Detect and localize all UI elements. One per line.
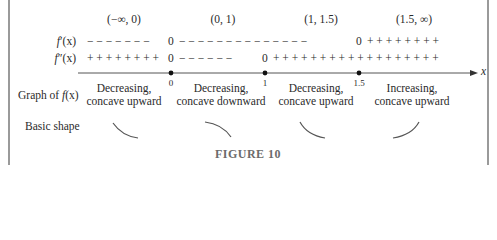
- figure-caption: FIGURE 10: [215, 147, 281, 162]
- graph-desc-1.5-inf: Increasing,concave upward: [374, 82, 449, 108]
- point-1.5: [357, 71, 362, 76]
- point-1: [263, 71, 268, 76]
- graph-desc-1-1.5: Decreasing,concave upward: [278, 82, 353, 108]
- basic-shape-label: Basic shape: [25, 120, 80, 133]
- shape-decreasing-concave-down-icon: [205, 122, 231, 137]
- graph-row-label: Graph of f(x): [18, 89, 79, 102]
- graph-desc-0-1: Decreasing,concave downward: [176, 82, 265, 108]
- graph-desc-neg-inf-0: Decreasing,concave upward: [86, 82, 161, 108]
- axis-arrow-icon: [470, 70, 478, 76]
- shape-increasing-concave-up-icon: [393, 122, 419, 138]
- axis-variable-label: x: [481, 65, 486, 78]
- point-0: [169, 71, 174, 76]
- shape-decreasing-concave-up-icon: [300, 122, 325, 138]
- tick-0: 0: [169, 77, 174, 90]
- tick-1.5: 1.5: [353, 77, 364, 90]
- shape-decreasing-concave-up-icon: [113, 123, 138, 138]
